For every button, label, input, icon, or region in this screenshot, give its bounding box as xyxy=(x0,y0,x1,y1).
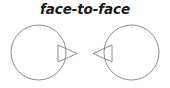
figure-diagram-canvas xyxy=(0,0,170,88)
right-agent-group xyxy=(93,25,159,80)
figure-container: face-to-face xyxy=(0,0,170,88)
left-agent-pointer-triangle-icon xyxy=(58,45,77,62)
left-agent-group xyxy=(11,25,77,80)
right-agent-pointer-triangle-icon xyxy=(93,45,112,62)
